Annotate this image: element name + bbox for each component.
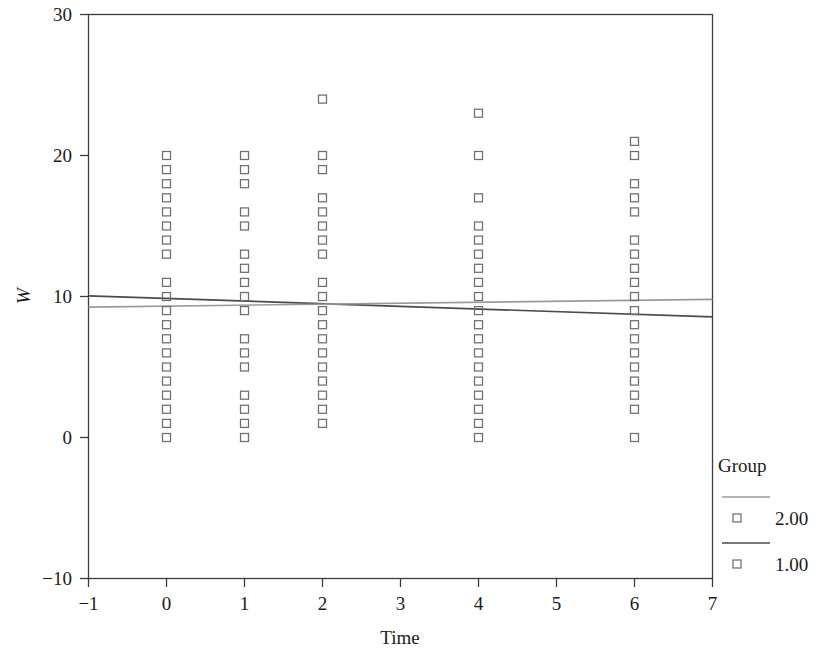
x-tick-label-3: 3 (396, 593, 406, 614)
data-point (475, 293, 483, 301)
data-point (475, 363, 483, 371)
data-point (319, 222, 327, 230)
data-point (631, 293, 639, 301)
data-point (475, 194, 483, 202)
data-point (631, 180, 639, 188)
data-point (631, 405, 639, 413)
data-point (475, 222, 483, 230)
data-point (319, 307, 327, 315)
legend-label-1: 1.00 (775, 554, 808, 575)
data-point (631, 321, 639, 329)
legend-entry-2[interactable]: 2.00 (722, 497, 808, 529)
data-point (241, 434, 249, 442)
y-tick-label-20: 20 (53, 145, 72, 166)
data-point (631, 335, 639, 343)
data-point (163, 335, 171, 343)
data-point (319, 321, 327, 329)
y-axis-tick-labels: 30 20 10 0 −10 (42, 4, 72, 589)
data-point (163, 194, 171, 202)
data-point (631, 250, 639, 258)
legend: Group 2.00 1.00 (718, 455, 808, 575)
data-point (631, 236, 639, 244)
data-point (631, 391, 639, 399)
data-point (163, 152, 171, 160)
data-point (475, 264, 483, 272)
data-point (319, 166, 327, 174)
data-point (241, 152, 249, 160)
data-point (241, 335, 249, 343)
y-tick-label-0: 0 (63, 427, 73, 448)
x-tick-label-1: 1 (240, 593, 250, 614)
y-axis-title: W (13, 286, 34, 304)
data-point (163, 405, 171, 413)
y-tick-label-30: 30 (53, 4, 72, 25)
x-axis-ticks (89, 579, 713, 588)
data-point (475, 419, 483, 427)
data-point (319, 419, 327, 427)
data-point (319, 152, 327, 160)
data-point (631, 377, 639, 385)
data-point (475, 349, 483, 357)
data-point (475, 236, 483, 244)
data-points-group (163, 95, 639, 441)
data-point (241, 250, 249, 258)
x-axis-tick-labels: −1 0 1 2 3 4 5 6 7 (78, 593, 717, 614)
x-tick-label-minus1: −1 (78, 593, 98, 614)
data-point (319, 335, 327, 343)
data-point (163, 363, 171, 371)
data-point (163, 349, 171, 357)
data-point (241, 166, 249, 174)
data-point (631, 137, 639, 145)
data-point (319, 377, 327, 385)
data-point (631, 349, 639, 357)
data-point (163, 307, 171, 315)
x-tick-label-4: 4 (474, 593, 484, 614)
data-point (241, 222, 249, 230)
y-tick-label-10: 10 (53, 286, 72, 307)
data-point (475, 250, 483, 258)
data-point (241, 208, 249, 216)
data-point (631, 363, 639, 371)
data-point (163, 208, 171, 216)
data-point (241, 307, 249, 315)
data-point (241, 264, 249, 272)
data-point (163, 278, 171, 286)
data-point (241, 405, 249, 413)
x-tick-label-7: 7 (708, 593, 718, 614)
data-point (631, 278, 639, 286)
plot-frame (89, 15, 713, 579)
data-point (475, 405, 483, 413)
data-point (631, 194, 639, 202)
data-point (241, 293, 249, 301)
data-point (631, 152, 639, 160)
data-point (319, 391, 327, 399)
data-point (475, 377, 483, 385)
y-tick-label-minus10: −10 (42, 568, 72, 589)
data-point (163, 419, 171, 427)
legend-marker-1 (733, 560, 741, 568)
data-point (241, 391, 249, 399)
data-point (163, 434, 171, 442)
data-point (163, 250, 171, 258)
x-tick-label-5: 5 (552, 593, 562, 614)
x-tick-label-0: 0 (162, 593, 172, 614)
data-point (475, 152, 483, 160)
data-point (475, 321, 483, 329)
data-point (319, 363, 327, 371)
data-point (319, 250, 327, 258)
x-tick-label-6: 6 (630, 593, 640, 614)
data-point (163, 236, 171, 244)
data-point (319, 278, 327, 286)
fit-lines-group (89, 296, 713, 317)
legend-entry-1[interactable]: 1.00 (722, 543, 808, 575)
x-axis-title: Time (380, 627, 419, 648)
legend-marker-2 (733, 514, 741, 522)
data-point (631, 264, 639, 272)
data-point (241, 419, 249, 427)
data-point (241, 278, 249, 286)
data-point (241, 363, 249, 371)
data-point (631, 434, 639, 442)
y-axis-ticks (80, 15, 89, 579)
data-point (475, 335, 483, 343)
legend-label-2: 2.00 (775, 508, 808, 529)
